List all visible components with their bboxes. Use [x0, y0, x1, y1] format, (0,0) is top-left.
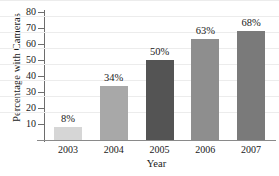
y-tick-mark: [38, 108, 44, 109]
y-tick-label: 70: [12, 23, 36, 33]
y-tick-label: 50: [12, 55, 36, 65]
bar-2007: [237, 31, 265, 140]
bar-value-label-2003: 8%: [46, 113, 90, 124]
y-tick-mark: [38, 12, 44, 13]
y-tick-mark: [38, 124, 44, 125]
y-tick-label: 60: [12, 39, 36, 49]
bar-2005: [146, 60, 174, 140]
bar-chart: Percentage with Cameras 1020304050607080…: [0, 0, 279, 176]
bar-2004: [100, 86, 128, 140]
gridline: [0, 0, 279, 1]
y-tick-mark: [38, 76, 44, 77]
bar-2003: [54, 127, 82, 140]
bar-value-label-2005: 50%: [138, 46, 182, 57]
y-tick-mark: [38, 28, 44, 29]
bar-value-label-2007: 68%: [229, 17, 273, 28]
x-axis-title: Year: [0, 158, 279, 169]
y-tick-mark: [38, 92, 44, 93]
bar-2006: [191, 39, 219, 140]
y-tick-label: 30: [12, 87, 36, 97]
y-tick-mark: [38, 44, 44, 45]
bar-value-label-2006: 63%: [183, 25, 227, 36]
x-tick-label-2006: 2006: [183, 144, 227, 155]
x-tick-label-2003: 2003: [46, 144, 90, 155]
y-tick-label: 10: [12, 119, 36, 129]
y-tick-label: 80: [12, 7, 36, 17]
x-tick-label-2005: 2005: [138, 144, 182, 155]
y-tick-label: 40: [12, 71, 36, 81]
y-tick-label: 20: [12, 103, 36, 113]
x-tick-label-2007: 2007: [229, 144, 273, 155]
bar-value-label-2004: 34%: [92, 72, 136, 83]
x-tick-label-2004: 2004: [92, 144, 136, 155]
y-tick-mark: [38, 60, 44, 61]
